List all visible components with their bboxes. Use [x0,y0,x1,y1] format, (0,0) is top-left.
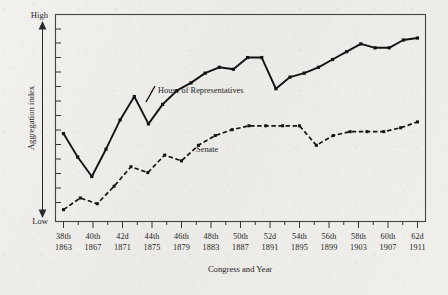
house-point-4 [119,118,122,121]
x-tick-label-congress-44th: 44th [145,232,160,241]
x-tick-label-year-1871: 1871 [114,243,131,252]
x-tick-label-year-1903: 1903 [350,243,367,252]
senate-point-21 [416,120,419,123]
senate-point-14 [298,124,301,127]
house-point-19 [331,58,334,61]
x-tick-label-year-1879: 1879 [173,243,190,252]
house-point-15 [274,87,277,90]
senate-point-19 [382,130,385,133]
x-tick-label-congress-40th: 40th [86,232,101,241]
senate-point-2 [96,202,99,205]
senate-point-6 [163,154,166,157]
senate-point-3 [113,185,116,188]
house-point-21 [359,42,362,45]
house-markers [62,36,419,178]
house-point-14 [260,56,263,59]
house-point-17 [303,72,306,75]
x-tick-label-year-1883: 1883 [203,243,220,252]
x-tick-label-congress-52d: 52d [264,232,277,241]
house-point-10 [204,72,207,75]
house-label-leader-line [146,86,155,102]
senate-point-9 [214,134,217,137]
x-tick-label-year-1899: 1899 [321,243,338,252]
x-tick-label-congress-38th: 38th [56,232,71,241]
x-tick-label-congress-46th: 46th [174,232,189,241]
house-point-7 [161,103,164,106]
senate-point-16 [332,134,335,137]
house-point-9 [189,81,192,84]
senate-point-7 [180,159,183,162]
senate-point-1 [79,196,82,199]
x-tick-label-year-1867: 1867 [85,243,102,252]
x-tick-label-congress-50th: 50th [233,232,248,241]
x-tick-label-year-1887: 1887 [232,243,249,252]
house-point-16 [288,75,291,78]
senate-point-20 [399,126,402,129]
chart-svg: High Low Aggregation index 38th186340th1… [0,0,448,295]
chart-figure: High Low Aggregation index 38th186340th1… [0,0,448,295]
x-axis-tick-labels: 38th186340th186742d187144th187546th18794… [55,232,426,252]
y-axis-low-label: Low [32,216,49,226]
senate-point-5 [146,171,149,174]
senate-line [64,122,418,210]
senate-point-0 [62,208,65,211]
x-tick-label-year-1863: 1863 [55,243,72,252]
house-line [64,38,418,176]
senate-point-4 [129,165,132,168]
x-tick-label-congress-62d: 62d [411,232,424,241]
x-tick-label-year-1891: 1891 [262,243,279,252]
house-point-13 [246,56,249,59]
house-point-3 [104,148,107,151]
x-tick-label-congress-58th: 58th [351,232,366,241]
house-point-25 [416,36,419,39]
house-point-0 [62,132,65,135]
house-point-20 [345,50,348,53]
y-axis-ticks [56,29,62,203]
x-tick-label-congress-42d: 42d [116,232,129,241]
x-tick-label-congress-54th: 54th [292,232,307,241]
house-point-2 [90,175,93,178]
house-point-12 [232,68,235,71]
house-point-18 [317,66,320,69]
house-point-22 [373,46,376,49]
house-point-23 [388,46,391,49]
senate-point-13 [281,124,284,127]
x-tick-label-congress-60th: 60th [381,232,396,241]
x-tick-label-year-1895: 1895 [291,243,308,252]
house-point-24 [402,38,405,41]
senate-point-10 [231,128,234,131]
senate-point-18 [365,130,368,133]
series-house-of-representatives [62,36,419,178]
x-tick-label-year-1911: 1911 [409,243,425,252]
senate-markers [62,120,419,211]
senate-point-17 [349,130,352,133]
x-tick-label-congress-48th: 48th [204,232,219,241]
house-point-6 [147,122,150,125]
x-tick-label-congress-56th: 56th [322,232,337,241]
senate-point-11 [247,124,250,127]
senate-point-15 [315,144,318,147]
house-point-11 [218,66,221,69]
senate-series-label: Senate [196,145,219,154]
series-senate [62,120,419,211]
house-series-label: House of Representatives [158,86,244,95]
house-point-5 [133,95,136,98]
senate-point-12 [264,124,267,127]
house-point-1 [76,155,79,158]
x-axis-title: Congress and Year [208,264,272,274]
y-axis-arrow [39,21,47,218]
y-axis-high-label: High [31,10,49,20]
x-tick-label-year-1875: 1875 [144,243,161,252]
x-axis-ticks [64,222,418,229]
y-axis-title: Aggregation index [26,85,36,150]
x-tick-label-year-1907: 1907 [380,243,397,252]
